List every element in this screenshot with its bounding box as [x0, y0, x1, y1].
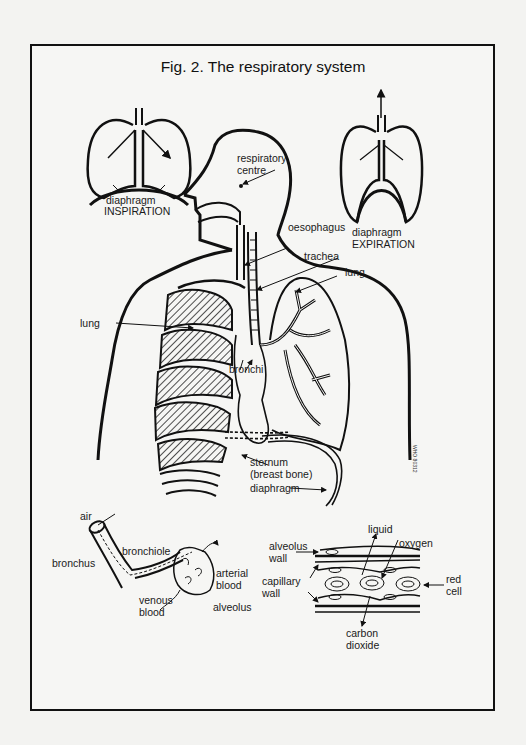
label-venous-line2: blood [139, 606, 165, 618]
label-arterial-line1: arterial [216, 567, 248, 579]
label-diaphragm: diaphragm [250, 482, 300, 494]
label-oxygen: oxygen [399, 537, 433, 549]
label-carbon-dioxide-line1: carbon [346, 627, 378, 639]
publisher-stamp: WHO 80312 [412, 445, 418, 473]
label-alveolus-wall-line1: alveolus [269, 540, 308, 552]
label-sternum-line1: sternum [250, 456, 288, 468]
label-red-cell-line1: red [446, 573, 461, 585]
inspiration-caption: INSPIRATION [104, 205, 170, 217]
label-capillary-wall-line1: capillary [262, 575, 301, 587]
label-venous-line1: venous [139, 594, 173, 606]
label-trachea: trachea [304, 250, 339, 262]
expiration-inset [341, 90, 422, 222]
inspiration-inset [88, 108, 191, 205]
label-lung-left: lung [345, 266, 365, 278]
label-liquid: liquid [368, 523, 393, 535]
label-arterial-line2: blood [216, 579, 242, 591]
rib-cage [155, 281, 245, 497]
label-red-cell-line2: cell [446, 585, 462, 597]
trachea [248, 232, 260, 345]
label-carbon-dioxide-line2: dioxide [346, 639, 379, 651]
label-alveolus: alveolus [213, 601, 252, 613]
left-lung [260, 278, 349, 450]
label-lung-right: lung [80, 317, 100, 329]
label-air: air [80, 510, 92, 522]
expiration-caption: EXPIRATION [352, 238, 415, 250]
label-capillary-wall-line2: wall [262, 587, 280, 599]
label-alveolus-wall-line2: wall [269, 552, 287, 564]
respiratory-centre-dot [239, 184, 243, 188]
label-bronchus: bronchus [52, 557, 95, 569]
label-respiratory-centre-line2: centre [237, 164, 266, 176]
expiration-diaphragm-label: diaphragm [352, 226, 402, 238]
label-bronchi: bronchi [229, 363, 263, 375]
label-respiratory-centre-line1: respiratory [237, 152, 287, 164]
label-oesophagus: oesophagus [288, 221, 345, 233]
label-sternum-line2: (breast bone) [250, 468, 312, 480]
label-bronchiole: bronchiole [122, 545, 170, 557]
